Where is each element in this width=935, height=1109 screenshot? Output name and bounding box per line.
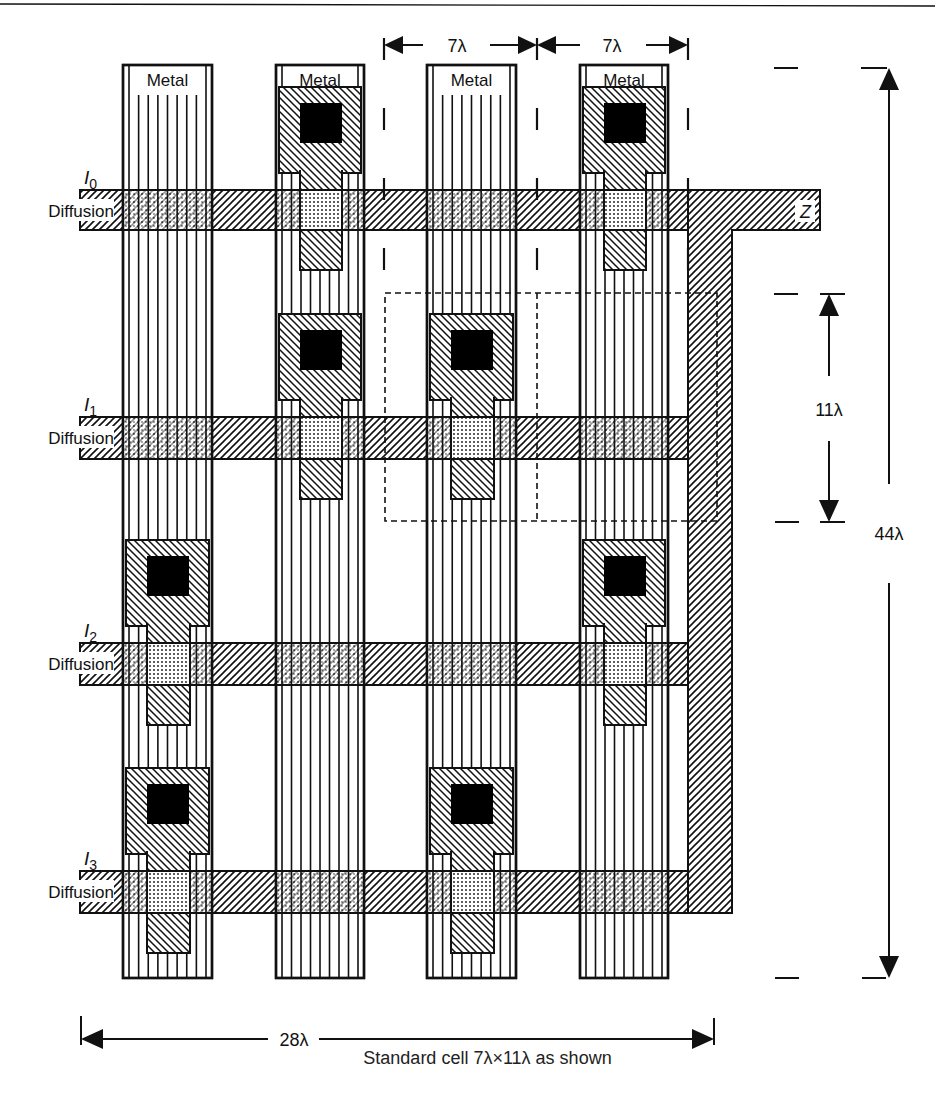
contact-cut-icon (300, 103, 342, 143)
metal-label: Metal (147, 71, 189, 90)
output-z-label: Z (799, 202, 812, 222)
metal-label: Metal (451, 71, 493, 90)
dim-total-width-label: 28λ (279, 1030, 308, 1050)
contact-cut-icon (451, 330, 493, 370)
input-label: I3 (84, 848, 97, 873)
diffusion-label: Diffusion (48, 429, 114, 448)
contact-cut-icon (300, 330, 342, 370)
layout-diagram: MetalMetalMetalMetal DiffusionI0Diffusio… (0, 0, 935, 1109)
diffusion-label: Diffusion (48, 883, 114, 902)
dim-top-right-label: 7λ (602, 36, 621, 56)
dim-top-left-label: 7λ (447, 36, 466, 56)
diffusion-label: Diffusion (48, 655, 114, 674)
input-label: I0 (84, 167, 97, 192)
contact-cut-icon (147, 556, 189, 596)
dimension-total-width: 28λ (81, 1016, 714, 1050)
input-label: I2 (84, 620, 97, 645)
page-header-rule (0, 4, 935, 6)
output-diffusion-z (668, 190, 820, 913)
dim-cell-height-label: 11λ (815, 400, 843, 420)
contact-cut-icon (604, 556, 646, 596)
input-label: I1 (84, 394, 97, 419)
contact-cut-icon (451, 784, 493, 824)
figure-caption: Standard cell 7λ×11λ as shown (0, 1048, 935, 1069)
dim-total-height-label: 44λ (874, 524, 903, 544)
contact-cut-icon (147, 784, 189, 824)
dimension-cell-height: 11λ (774, 294, 845, 522)
diffusion-label: Diffusion (48, 202, 114, 221)
contact-cut-icon (604, 103, 646, 143)
